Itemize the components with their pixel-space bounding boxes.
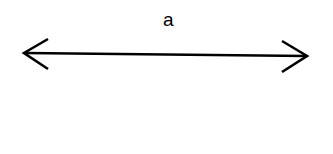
diagram-canvas: a	[0, 0, 333, 154]
arrow-shaft	[25, 53, 306, 56]
arrow-label: a	[163, 9, 174, 31]
